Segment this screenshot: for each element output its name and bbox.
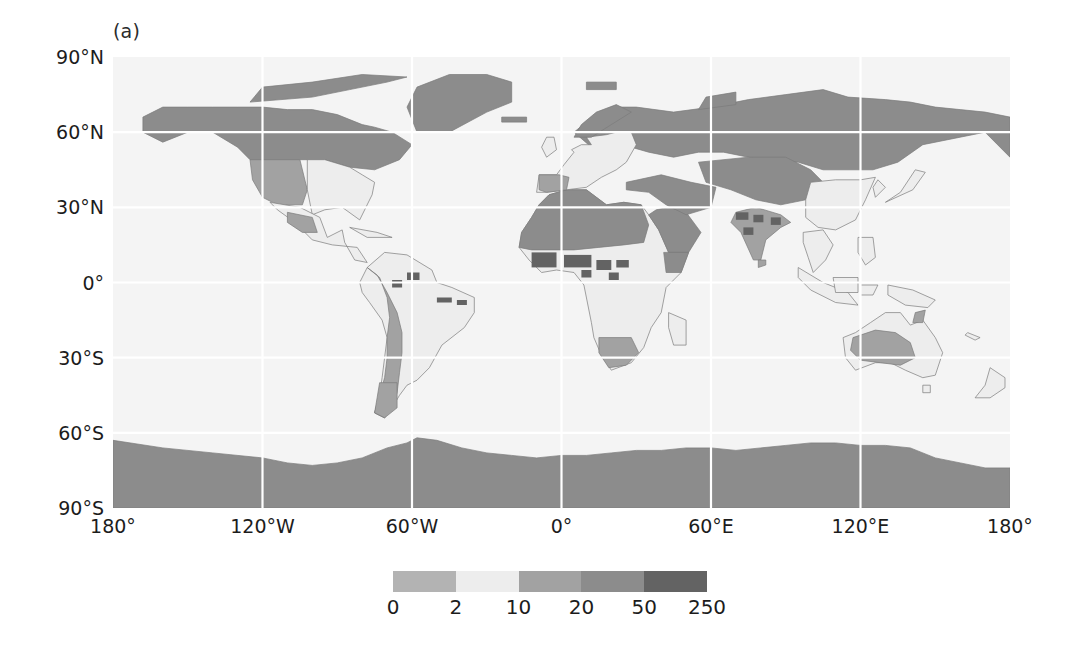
colorbar-band-0 xyxy=(393,571,456,592)
sahel-patch-4 xyxy=(616,260,629,268)
colorbar-band-2 xyxy=(519,571,582,592)
colorbar-band-3 xyxy=(581,571,644,592)
x-tick-label: 0° xyxy=(502,515,622,537)
y-tick-label: 30°N xyxy=(4,196,104,218)
panel-label: (a) xyxy=(113,20,140,42)
sahel-patch-5 xyxy=(609,273,619,281)
india-patch-3 xyxy=(771,217,781,225)
world-map-raster xyxy=(113,57,1010,508)
y-tick-label: 0° xyxy=(4,272,104,294)
colorbar-tick-labels: 02102050250 xyxy=(393,595,707,625)
x-tick-label: 180° xyxy=(53,515,173,537)
colorbar-bands xyxy=(393,571,707,592)
india-patch-4 xyxy=(743,227,753,235)
sahel-patch-1 xyxy=(532,252,557,267)
india-patch-1 xyxy=(736,212,749,220)
amazon-patch-1 xyxy=(407,273,420,281)
sahel-patch-6 xyxy=(581,270,591,278)
colorbar-band-1 xyxy=(456,571,519,592)
colorbar: 02102050250 xyxy=(393,571,707,631)
india-patch-2 xyxy=(753,215,763,223)
amazon-patch-2 xyxy=(392,280,402,288)
svalbard xyxy=(586,82,616,90)
y-tick-label: 60°N xyxy=(4,121,104,143)
x-tick-label: 120°E xyxy=(801,515,921,537)
map-plot-area xyxy=(113,57,1010,508)
colorbar-tick-5: 250 xyxy=(667,595,747,619)
map-figure: (a) 90°N60°N30°N0°30°S60°S90°S 180°120°W… xyxy=(0,0,1081,662)
y-tick-label: 30°S xyxy=(4,347,104,369)
y-tick-label: 90°N xyxy=(4,46,104,68)
amazon-patch-4 xyxy=(457,300,467,305)
x-tick-label: 120°W xyxy=(203,515,323,537)
borneo xyxy=(833,278,858,293)
iceland xyxy=(502,117,527,122)
amazon-patch-3 xyxy=(437,298,452,303)
x-axis-labels: 180°120°W60°W0°60°E120°E180° xyxy=(113,515,1010,545)
x-tick-label: 180° xyxy=(950,515,1070,537)
colorbar-band-4 xyxy=(644,571,707,592)
x-tick-label: 60°E xyxy=(651,515,771,537)
tasmania xyxy=(923,385,931,393)
y-tick-label: 60°S xyxy=(4,422,104,444)
x-tick-label: 60°W xyxy=(352,515,472,537)
iberia xyxy=(539,175,569,193)
y-axis-labels: 90°N60°N30°N0°30°S60°S90°S xyxy=(0,57,104,508)
sahel-patch-2 xyxy=(564,255,591,268)
sahel-patch-3 xyxy=(596,260,611,270)
